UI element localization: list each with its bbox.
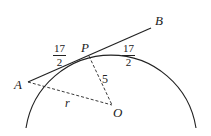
circle-arc <box>26 55 196 128</box>
ap-numerator: 17 <box>53 43 66 56</box>
ap-length-label: 17 2 <box>53 43 66 68</box>
ao-radius-label: r <box>65 97 70 109</box>
segment-ao <box>28 82 112 105</box>
ap-denominator: 2 <box>57 56 63 68</box>
pb-denominator: 2 <box>126 56 132 68</box>
point-p-label: P <box>81 41 89 54</box>
point-o-label: O <box>113 106 122 119</box>
pb-length-label: 17 2 <box>122 43 135 68</box>
segment-po <box>89 56 112 105</box>
point-a-label: A <box>14 78 22 91</box>
pb-numerator: 17 <box>122 43 135 56</box>
po-length-label: 5 <box>102 73 108 85</box>
point-b-label: B <box>155 14 163 27</box>
geometry-diagram <box>0 0 211 136</box>
